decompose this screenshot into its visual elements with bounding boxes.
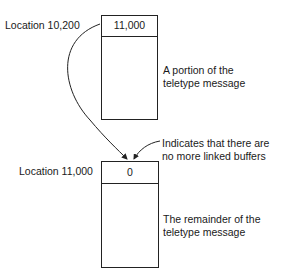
arrows-layer xyxy=(0,0,286,279)
annotation-arrow-icon xyxy=(134,141,160,159)
link-arrow-icon xyxy=(68,24,127,159)
